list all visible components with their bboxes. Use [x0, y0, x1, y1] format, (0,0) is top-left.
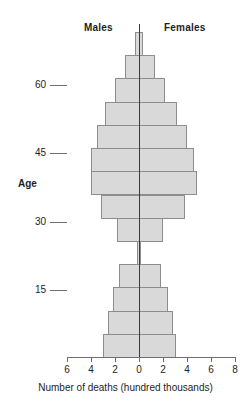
- y-axis-tick-label: 15: [26, 284, 46, 295]
- y-axis-title: Age: [18, 178, 37, 189]
- bar-females-0-10: [139, 334, 176, 358]
- bar-females-40-45: [139, 171, 197, 195]
- bar-females-65-70: [139, 55, 155, 79]
- x-axis-tick-label: 6: [59, 364, 75, 375]
- bar-males-65-70: [125, 55, 140, 79]
- x-axis-tick-mark: [211, 357, 212, 362]
- x-axis-tick-mark: [139, 357, 140, 362]
- bar-males-15-20: [113, 287, 140, 311]
- x-axis-line: [67, 357, 235, 358]
- x-axis-tick-mark: [115, 357, 116, 362]
- y-axis-tick-label: 60: [26, 79, 46, 90]
- x-axis-title: Number of deaths (hundred thousands): [0, 382, 251, 393]
- population-pyramid-chart: Males Females 15304560 Age 64202468 Numb…: [0, 0, 251, 405]
- bar-females-50-55: [139, 125, 187, 149]
- bar-females-55-60: [139, 102, 177, 126]
- bar-females-45-50: [139, 148, 194, 172]
- bar-females-30-35: [139, 218, 163, 242]
- plot-area: 15304560: [0, 0, 251, 365]
- y-axis-tick-label: 45: [26, 147, 46, 158]
- bar-females-20-25: [139, 264, 161, 288]
- x-axis-tick-label: 8: [227, 364, 243, 375]
- x-axis-tick-label: 6: [203, 364, 219, 375]
- y-axis-tick-mark: [50, 153, 67, 154]
- bar-males-20-25: [119, 264, 140, 288]
- bar-females-10-15: [139, 311, 173, 335]
- center-axis-line: [139, 24, 140, 357]
- x-axis-tick-mark: [163, 357, 164, 362]
- x-axis-tick-mark: [187, 357, 188, 362]
- x-axis-tick-mark: [91, 357, 92, 362]
- bar-males-45-50: [91, 148, 140, 172]
- bar-males-50-55: [97, 125, 140, 149]
- x-axis-tick-label: 0: [131, 364, 147, 375]
- bar-males-0-10: [103, 334, 140, 358]
- x-axis-tick-label: 4: [179, 364, 195, 375]
- bar-males-30-35: [117, 218, 140, 242]
- x-axis-tick-label: 4: [83, 364, 99, 375]
- bar-males-60-65: [115, 78, 140, 102]
- bar-females-35-40: [139, 195, 185, 219]
- x-axis-tick-label: 2: [107, 364, 123, 375]
- y-axis-tick-mark: [50, 290, 67, 291]
- bar-females-15-20: [139, 287, 168, 311]
- bar-males-35-40: [101, 195, 140, 219]
- x-axis-tick-label: 2: [155, 364, 171, 375]
- y-axis-tick-label: 30: [26, 216, 46, 227]
- bar-females-60-65: [139, 78, 165, 102]
- bar-males-55-60: [105, 102, 140, 126]
- y-axis-tick-mark: [50, 222, 67, 223]
- x-axis-tick-mark: [67, 357, 68, 362]
- bar-males-40-45: [91, 171, 140, 195]
- bar-males-10-15: [108, 311, 140, 335]
- y-axis-tick-mark: [50, 85, 67, 86]
- x-axis-tick-mark: [235, 357, 236, 362]
